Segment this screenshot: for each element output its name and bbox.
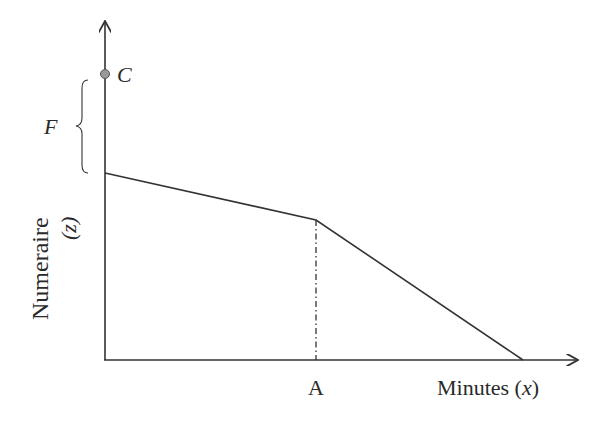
brace-f-label: F [43, 114, 58, 139]
y-axis-label-var-group: (z) [56, 217, 81, 240]
y-axis-label-var: (z) [56, 217, 81, 240]
point-c-label: C [117, 62, 132, 87]
budget-line [105, 173, 523, 360]
chart-canvas: C F A Minutes (x) Numeraire (z) [0, 0, 602, 423]
x-axis-label: Minutes (x) [437, 375, 539, 400]
point-c [101, 70, 110, 79]
y-axis-label-main: Numeraire [27, 217, 53, 320]
brace-f [76, 80, 88, 173]
y-axis-label: Numeraire [27, 217, 53, 320]
tick-a-label: A [308, 375, 324, 400]
